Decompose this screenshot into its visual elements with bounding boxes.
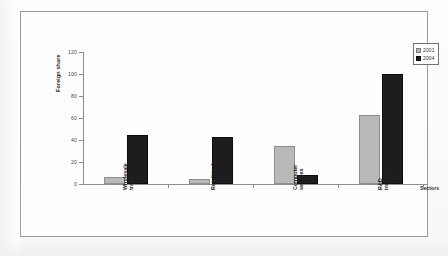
y-tick-label: 80 xyxy=(71,93,77,99)
y-tick-mark xyxy=(79,74,83,75)
y-tick-mark xyxy=(79,184,83,185)
legend-item-2001[interactable]: 2001 xyxy=(416,46,435,54)
y-tick-mark xyxy=(79,52,83,53)
y-tick-mark xyxy=(79,162,83,163)
y-axis-line xyxy=(83,52,84,185)
figure-page: Foreign share Sectors 020406080100120 Wh… xyxy=(0,0,448,256)
y-tick-label: 20 xyxy=(71,159,77,165)
figure-frame: Foreign share Sectors 020406080100120 Wh… xyxy=(20,11,428,237)
y-tick-mark xyxy=(79,118,83,119)
scan-edge-shading-left xyxy=(0,0,20,256)
x-category-label-text: R&D institutions xyxy=(377,161,389,190)
y-axis-title-text: Foreign share xyxy=(55,54,61,92)
legend-item-2004[interactable]: 2004 xyxy=(416,54,435,62)
x-tick-mark xyxy=(253,184,254,188)
y-tick-mark xyxy=(79,140,83,141)
x-tick-mark xyxy=(338,184,339,188)
x-tick-mark xyxy=(423,184,424,188)
x-category-label-text: Retail trade xyxy=(210,161,216,190)
y-tick-label: 40 xyxy=(71,137,77,143)
scan-edge-shading-bottom xyxy=(0,238,448,256)
legend-label-2004: 2004 xyxy=(423,55,435,61)
legend-swatch-2004 xyxy=(416,56,421,61)
y-tick-label: 60 xyxy=(71,115,77,121)
x-axis-line xyxy=(83,184,427,185)
x-category-label-text: Wholesale trade xyxy=(122,163,134,190)
y-tick-label: 120 xyxy=(68,49,77,55)
x-category-label-text: Computer services xyxy=(292,165,304,190)
legend-swatch-2001 xyxy=(416,48,421,53)
x-tick-mark xyxy=(168,184,169,188)
y-tick-label: 0 xyxy=(74,181,77,187)
y-tick-mark xyxy=(79,96,83,97)
legend: 20012004 xyxy=(413,43,439,65)
legend-label-2001: 2001 xyxy=(423,47,435,53)
y-tick-label: 100 xyxy=(68,71,77,77)
bar-2001-retail-trade[interactable] xyxy=(189,179,210,185)
